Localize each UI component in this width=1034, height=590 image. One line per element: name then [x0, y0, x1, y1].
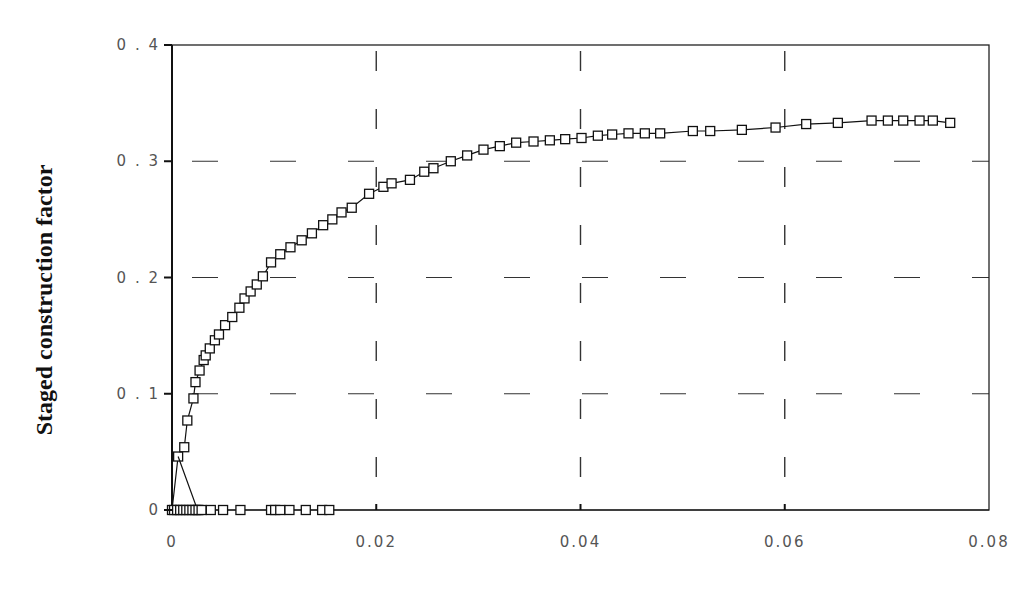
data-point-marker: [802, 120, 811, 129]
data-point-marker: [297, 236, 306, 245]
data-point-marker: [206, 506, 215, 515]
data-point-marker: [833, 118, 842, 127]
line-chart: 00 . 10 . 20 . 30 . 4 00.020.040.060.08 …: [0, 0, 1034, 590]
y-tick-label: 0 . 2: [117, 269, 160, 287]
y-tick-label: 0 . 3: [117, 152, 160, 170]
data-point-marker: [325, 506, 334, 515]
data-point-marker: [219, 506, 228, 515]
data-point-marker: [195, 366, 204, 375]
data-point-marker: [387, 179, 396, 188]
data-point-marker: [276, 250, 285, 259]
data-point-marker: [276, 506, 285, 515]
data-point-marker: [189, 394, 198, 403]
data-point-marker: [301, 506, 310, 515]
data-point-marker: [512, 138, 521, 147]
data-point-marker: [899, 116, 908, 125]
data-point-marker: [319, 221, 328, 230]
data-point-marker: [228, 313, 237, 322]
chart: 00 . 10 . 20 . 30 . 4 00.020.040.060.08 …: [0, 0, 1034, 590]
data-point-marker: [915, 116, 924, 125]
data-point-marker: [235, 303, 244, 312]
y-tick-label: 0 . 1: [117, 385, 160, 403]
x-tick-label: 0.02: [356, 533, 397, 551]
data-point-marker: [347, 203, 356, 212]
data-point-marker: [463, 151, 472, 160]
data-point-marker: [236, 506, 245, 515]
data-point-marker: [420, 167, 429, 176]
data-point-marker: [191, 378, 200, 387]
data-series: [168, 116, 990, 514]
data-point-marker: [640, 129, 649, 138]
data-point-marker: [946, 118, 955, 127]
data-point-marker: [446, 157, 455, 166]
data-point-marker: [180, 443, 189, 452]
data-point-marker: [529, 137, 538, 146]
data-point-marker: [737, 125, 746, 134]
data-point-marker: [214, 330, 223, 339]
data-point-marker: [197, 506, 206, 515]
x-tick-label: 0.08: [968, 533, 1009, 551]
data-point-marker: [337, 208, 346, 217]
x-tick-label: 0.06: [764, 533, 805, 551]
data-point-marker: [365, 189, 374, 198]
data-point-marker: [577, 134, 586, 143]
series-line: [172, 121, 950, 510]
y-axis-label: Staged construction factor: [31, 164, 57, 435]
data-point-marker: [867, 116, 876, 125]
y-tick-label: 0: [148, 501, 160, 519]
data-point-marker: [688, 127, 697, 136]
x-tick-label: 0.04: [560, 533, 601, 551]
data-point-marker: [479, 145, 488, 154]
data-point-marker: [258, 272, 267, 281]
data-point-marker: [624, 129, 633, 138]
data-point-marker: [495, 142, 504, 151]
data-point-marker: [656, 129, 665, 138]
data-point-marker: [286, 243, 295, 252]
data-point-marker: [771, 123, 780, 132]
data-point-marker: [307, 229, 316, 238]
data-point-marker: [285, 506, 294, 515]
data-point-marker: [545, 136, 554, 145]
y-tick-label: 0 . 4: [117, 36, 160, 54]
data-point-marker: [608, 130, 617, 139]
data-point-marker: [267, 258, 276, 267]
data-point-marker: [183, 416, 192, 425]
data-point-marker: [928, 116, 937, 125]
grid-lines: [172, 45, 989, 510]
y-axis-ticks: 00 . 10 . 20 . 30 . 4: [117, 36, 172, 519]
data-point-marker: [405, 175, 414, 184]
data-point-marker: [328, 215, 337, 224]
data-point-marker: [706, 127, 715, 136]
data-point-marker: [561, 135, 570, 144]
data-point-marker: [593, 131, 602, 140]
x-tick-label: 0: [166, 533, 178, 551]
data-point-marker: [883, 116, 892, 125]
data-point-marker: [429, 164, 438, 173]
